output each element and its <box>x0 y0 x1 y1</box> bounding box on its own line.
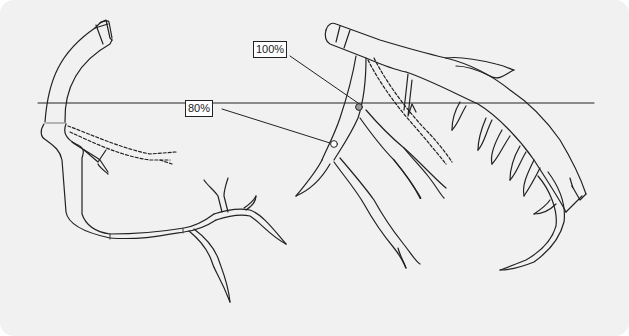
leader-line-100 <box>290 56 358 103</box>
occlusion-marker-100 <box>356 104 363 111</box>
stenosis-marker-80 <box>331 141 338 148</box>
leader-line-80 <box>222 109 330 143</box>
rca-collateral-dashed <box>68 126 176 164</box>
stenosis-label-100: 100% <box>253 41 287 58</box>
right-coronary-artery <box>41 20 286 302</box>
stenosis-label-80: 80% <box>185 100 213 117</box>
coronary-diagram <box>0 0 629 336</box>
